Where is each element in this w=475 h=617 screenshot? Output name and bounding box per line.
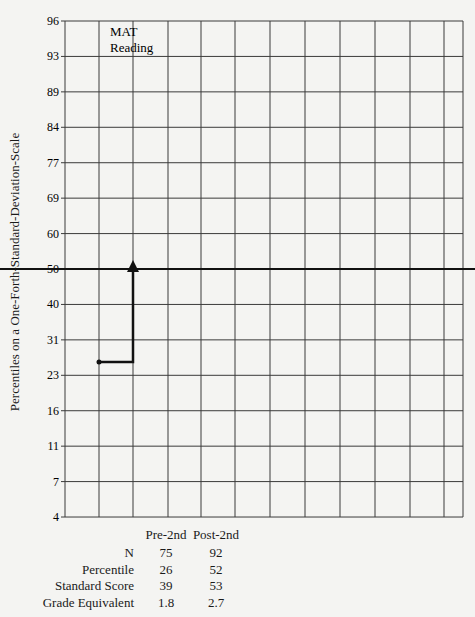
- y-tick-label: 31: [47, 333, 59, 347]
- y-tick-label: 60: [47, 227, 59, 241]
- stats-row: N7592: [0, 544, 260, 562]
- y-tick-label: 11: [47, 439, 59, 453]
- stats-row: Percentile2652: [0, 561, 260, 579]
- stats-header-row: Pre-2nd Post-2nd: [0, 526, 260, 544]
- chart-title-line2: Reading: [110, 40, 154, 55]
- arrowhead-icon: [127, 260, 139, 272]
- post-value: 92: [186, 544, 246, 562]
- y-tick-label: 4: [53, 510, 59, 524]
- post-value: 53: [186, 577, 246, 595]
- y-axis-label: Percentiles on a One-Forth-Standard-Devi…: [7, 107, 23, 437]
- stats-row: Standard Score3953: [0, 577, 260, 595]
- y-tick-label: 23: [47, 368, 59, 382]
- column-header-post: Post-2nd: [186, 526, 246, 544]
- chart-plot: 9693898477696050403123161174 MAT Reading: [0, 0, 475, 525]
- stats-row-label: N: [125, 544, 134, 562]
- y-tick-label: 84: [47, 120, 59, 134]
- y-tick-label: 89: [47, 85, 59, 99]
- y-tick-label: 7: [53, 475, 59, 489]
- y-tick-label: 16: [47, 404, 59, 418]
- chart-title-line1: MAT: [110, 24, 138, 39]
- y-tick-label: 69: [47, 191, 59, 205]
- post-value: 52: [186, 561, 246, 579]
- stats-row-label: Percentile: [82, 561, 134, 579]
- y-tick-label: 40: [47, 297, 59, 311]
- stats-row: Grade Equivalent1.82.7: [0, 594, 260, 612]
- y-tick-label: 77: [47, 156, 59, 170]
- stats-row-label: Grade Equivalent: [43, 594, 134, 612]
- y-tick-label: 96: [47, 14, 59, 28]
- y-tick-label: 93: [47, 49, 59, 63]
- post-value: 2.7: [186, 594, 246, 612]
- start-point-marker: [97, 360, 102, 365]
- stats-row-label: Standard Score: [55, 577, 134, 595]
- data-series-arrow: [97, 260, 140, 365]
